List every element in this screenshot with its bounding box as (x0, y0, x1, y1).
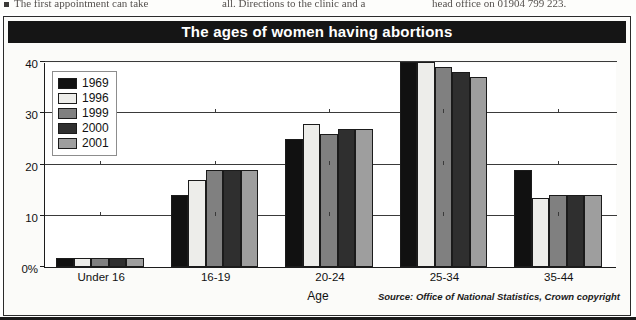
bar-1996-20-24[interactable] (303, 124, 321, 268)
bar-group (171, 62, 259, 267)
grid-inner-tick (100, 161, 101, 165)
legend-swatch-icon (58, 78, 77, 89)
grid-inner-tick (558, 161, 559, 165)
legend-label: 1996 (82, 91, 109, 106)
grid-inner-tick (558, 212, 559, 216)
y-axis-tick (40, 112, 45, 113)
bar-1996-35-44[interactable] (532, 198, 550, 267)
chart-figure: The ages of women having abortions 0%102… (3, 16, 631, 316)
bar-2000-16-19[interactable] (223, 170, 241, 267)
bar-1999-35-44[interactable] (549, 195, 567, 267)
y-axis-tick (40, 215, 45, 216)
bar-2000-under-16[interactable] (109, 258, 127, 267)
x-axis-category-label: 20-24 (273, 271, 387, 283)
grid-inner-tick (329, 161, 330, 165)
bar-1999-20-24[interactable] (320, 134, 338, 267)
bar-1969-under-16[interactable] (56, 258, 74, 267)
x-axis-category-label: 25-34 (387, 271, 501, 283)
bar-2001-16-19[interactable] (241, 170, 259, 267)
legend-swatch-icon (58, 93, 77, 104)
legend-item-1969[interactable]: 1969 (58, 76, 109, 91)
grid-inner-tick (329, 109, 330, 113)
legend-label: 2000 (82, 121, 109, 136)
bar-1999-under-16[interactable] (91, 258, 109, 267)
y-axis-tick (40, 61, 45, 62)
newsprint-column-3: head office on 01904 799 223. (432, 0, 566, 9)
bar-1996-16-19[interactable] (188, 180, 206, 267)
legend-label: 1969 (82, 76, 109, 91)
legend-label: 1999 (82, 106, 109, 121)
chart-title: The ages of women having abortions (8, 21, 626, 43)
bar-1996-under-16[interactable] (74, 258, 92, 267)
legend-item-2001[interactable]: 2001 (58, 136, 109, 151)
x-axis-category-label: Under 16 (44, 271, 158, 283)
x-axis-category-label: 16-19 (158, 271, 272, 283)
grid-inner-tick (329, 212, 330, 216)
chart-title-bar: The ages of women having abortions (8, 21, 626, 43)
bullet-icon (4, 2, 9, 7)
y-axis-label: 30 (4, 109, 38, 121)
bar-1969-16-19[interactable] (171, 195, 189, 267)
bar-1969-35-44[interactable] (514, 170, 532, 267)
bar-group (514, 62, 602, 267)
grid-inner-tick (215, 161, 216, 165)
bar-1999-16-19[interactable] (206, 170, 224, 267)
bar-1999-25-34[interactable] (435, 67, 453, 267)
y-axis-tick (40, 164, 45, 165)
y-axis-label: 20 (4, 161, 38, 173)
bar-group (285, 62, 373, 267)
bar-2000-20-24[interactable] (338, 129, 356, 267)
x-axis-category-label: 35-44 (502, 271, 616, 283)
chart-legend: 19691996199920002001 (52, 71, 117, 156)
y-axis-label: 40 (4, 58, 38, 70)
bar-group (400, 62, 488, 267)
y-axis-label: 10 (4, 212, 38, 224)
bar-2001-under-16[interactable] (126, 258, 144, 267)
grid-inner-tick (100, 212, 101, 216)
grid-inner-tick (443, 109, 444, 113)
plot-area (44, 63, 616, 268)
y-axis-labels: 0%10203040 (4, 63, 40, 268)
legend-item-1999[interactable]: 1999 (58, 106, 109, 121)
grid-inner-tick (443, 161, 444, 165)
bar-2001-35-44[interactable] (584, 195, 602, 267)
y-axis-label: 0% (4, 263, 38, 275)
grid-inner-tick (443, 212, 444, 216)
newsprint-text-1: The first appointment can take (14, 0, 148, 9)
bar-2000-25-34[interactable] (452, 72, 470, 267)
newsprint-column-2: all. Directions to the clinic and a (222, 0, 365, 9)
bar-1969-25-34[interactable] (400, 62, 418, 267)
grid-inner-tick (215, 212, 216, 216)
legend-swatch-icon (58, 108, 77, 119)
source-note: Source: Office of National Statistics, C… (378, 291, 620, 302)
bar-1969-20-24[interactable] (285, 139, 303, 267)
legend-item-2000[interactable]: 2000 (58, 121, 109, 136)
bar-2001-25-34[interactable] (470, 77, 488, 267)
y-axis-tick (40, 266, 45, 267)
bar-1996-25-34[interactable] (417, 62, 435, 267)
legend-label: 2001 (82, 136, 109, 151)
legend-item-1996[interactable]: 1996 (58, 91, 109, 106)
newsprint-column-1: The first appointment can take (4, 0, 148, 9)
bar-2000-35-44[interactable] (567, 195, 585, 267)
grid-inner-tick (215, 109, 216, 113)
legend-swatch-icon (58, 123, 77, 134)
newsprint-strip: The first appointment can take all. Dire… (0, 0, 636, 14)
bar-2001-20-24[interactable] (355, 129, 373, 267)
legend-swatch-icon (58, 138, 77, 149)
grid-inner-tick (558, 109, 559, 113)
